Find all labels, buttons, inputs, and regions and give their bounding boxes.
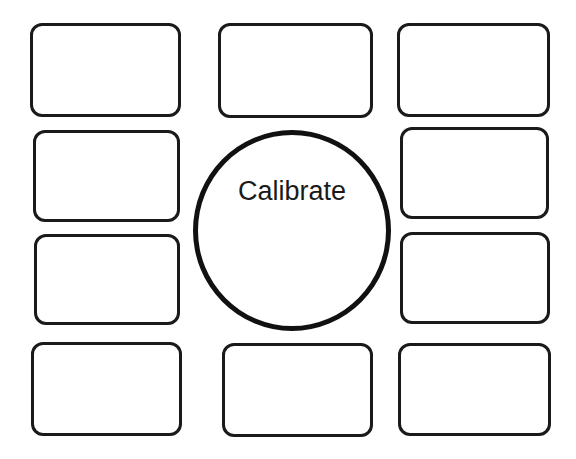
slot-r4c3[interactable]: [398, 343, 551, 436]
calibrate-button[interactable]: Calibrate: [193, 130, 391, 331]
slot-r3c3[interactable]: [400, 232, 550, 324]
slot-r2c1[interactable]: [33, 130, 180, 222]
slot-r2c3[interactable]: [400, 127, 549, 219]
slot-r1c3[interactable]: [397, 23, 550, 117]
slot-r4c2[interactable]: [222, 343, 373, 437]
slot-r1c2[interactable]: [218, 23, 373, 118]
slot-r1c1[interactable]: [30, 23, 181, 117]
calibrate-label: Calibrate: [198, 176, 386, 206]
slot-r3c1[interactable]: [34, 234, 180, 325]
slot-r4c1[interactable]: [31, 342, 182, 436]
